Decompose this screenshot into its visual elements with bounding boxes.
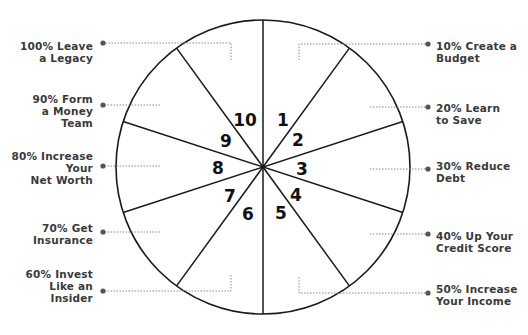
slice-label-9: 90% Form a Money Team — [33, 93, 93, 129]
leader-dot-icon — [100, 163, 105, 168]
leader-dot-icon — [425, 290, 430, 295]
leader-dot-icon — [100, 102, 105, 107]
slice-number-2: 2 — [292, 130, 304, 150]
slice-label-4: 40% Up Your Credit Score — [436, 230, 513, 254]
slice-label-7: 70% Get Insurance — [33, 222, 93, 246]
slice-label-5: 50% Increase Your Income — [436, 283, 518, 307]
leader-dot-icon — [100, 229, 105, 234]
leader-line — [103, 43, 231, 60]
leader-dot-icon — [425, 41, 430, 46]
leader-dot-icon — [100, 40, 105, 45]
wheel-spokes — [123, 20, 403, 314]
slice-number-1: 1 — [277, 110, 289, 130]
slice-label-6: 60% Invest Like an Insider — [26, 268, 93, 304]
slice-number-7: 7 — [224, 186, 236, 206]
slice-label-3: 30% Reduce Debt — [436, 160, 510, 184]
slice-label-2: 20% Learn to Save — [436, 102, 500, 126]
slice-number-4: 4 — [290, 185, 302, 205]
slice-number-10: 10 — [233, 110, 257, 130]
slice-number-6: 6 — [242, 204, 254, 224]
slice-number-5: 5 — [275, 203, 287, 223]
slice-label-1: 10% Create a Budget — [436, 40, 517, 64]
slice-number-9: 9 — [220, 131, 232, 151]
slice-number-8: 8 — [212, 158, 224, 178]
slice-label-10: 100% Leave a Legacy — [20, 40, 93, 64]
leader-line — [299, 277, 428, 293]
slice-label-8: 80% Increase Your Net Worth — [11, 150, 93, 186]
leader-dot-icon — [425, 104, 430, 109]
leader-dot-icon — [100, 288, 105, 293]
leader-dot-icon — [425, 166, 430, 171]
leader-line — [299, 44, 428, 60]
slice-number-3: 3 — [296, 159, 308, 179]
leader-dot-icon — [425, 231, 430, 236]
